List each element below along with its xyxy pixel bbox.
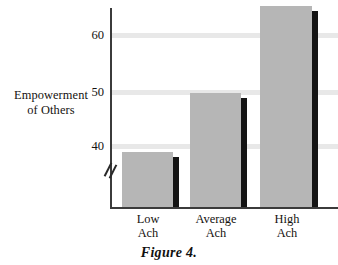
x-category-low-ach-line-2: Ach [112, 226, 184, 240]
figure-caption: Figure 4. [0, 245, 338, 261]
x-category-average-ach: Average Ach [179, 212, 253, 240]
x-category-low-ach: Low Ach [112, 212, 184, 240]
bar-low-ach [122, 152, 173, 207]
y-axis-tick-labels: 60 50 40 [76, 0, 104, 210]
bar-high-ach [260, 6, 312, 207]
bar-shadow-low-ach [173, 157, 179, 207]
x-category-low-ach-line-1: Low [112, 212, 184, 226]
x-axis-category-labels: Low Ach Average Ach High Ach [110, 212, 338, 248]
x-category-average-ach-line-1: Average [179, 212, 253, 226]
y-tick-label-50: 50 [78, 86, 104, 99]
x-category-high-ach: High Ach [252, 212, 322, 240]
bar-shadow-average-ach [241, 98, 247, 207]
plot-area [110, 0, 338, 210]
y-tick-label-40: 40 [78, 140, 104, 153]
figure-container: Empowerment of Others 60 50 40 [0, 0, 338, 265]
x-category-high-ach-line-2: Ach [252, 226, 322, 240]
x-category-high-ach-line-1: High [252, 212, 322, 226]
axis-break-icon [103, 160, 119, 182]
bar-average-ach [190, 93, 241, 207]
x-category-average-ach-line-2: Ach [179, 226, 253, 240]
bar-shadow-high-ach [312, 11, 318, 207]
y-tick-label-60: 60 [78, 29, 104, 42]
x-axis-line [110, 207, 338, 209]
